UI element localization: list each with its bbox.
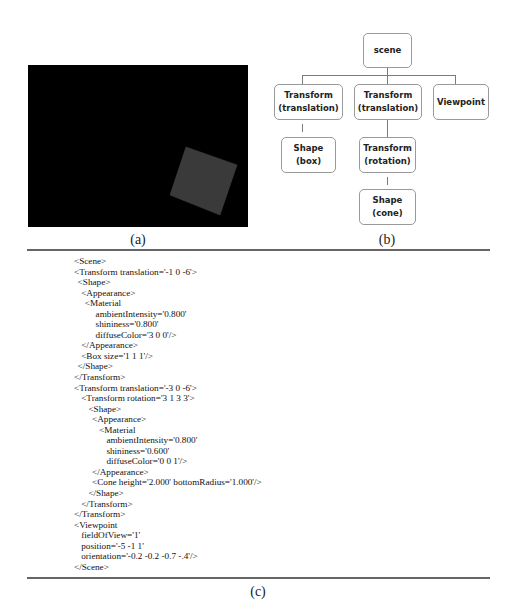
node-label: Transform bbox=[364, 89, 413, 102]
node-label: Transform bbox=[284, 89, 333, 102]
connector-line bbox=[302, 75, 456, 76]
connector-line bbox=[302, 124, 303, 132]
node-transform-rotation: Transform (rotation) bbox=[359, 137, 416, 173]
code-line: </Scene> bbox=[74, 562, 262, 573]
node-sublabel: (cone) bbox=[372, 207, 402, 220]
top-rule bbox=[27, 249, 490, 251]
code-line: <Material bbox=[74, 298, 262, 309]
node-label: Transform bbox=[363, 142, 412, 155]
caption-c: (c) bbox=[250, 584, 266, 600]
code-line: </Transform> bbox=[74, 499, 262, 510]
connector-line bbox=[455, 75, 456, 84]
code-line: <Transform translation='-1 0 -6'> bbox=[74, 267, 262, 278]
code-line: <Box size='1 1 1'/> bbox=[74, 351, 262, 362]
code-line: <Viewpoint bbox=[74, 520, 262, 531]
node-shape-cone: Shape (cone) bbox=[359, 189, 416, 225]
code-line: <Shape> bbox=[74, 404, 262, 415]
node-sublabel: (translation) bbox=[278, 102, 338, 115]
code-line: shininess='0.600' bbox=[74, 446, 262, 457]
code-line: </Shape> bbox=[74, 361, 262, 372]
code-line: ambientIntensity='0.800' bbox=[74, 435, 262, 446]
code-line: diffuseColor='3 0 0'/> bbox=[74, 330, 262, 341]
code-line: </Transform> bbox=[74, 509, 262, 520]
code-line: </Appearance> bbox=[74, 467, 262, 478]
code-line: orientation='-0.2 -0.2 -0.7 -.4'/> bbox=[74, 551, 262, 562]
caption-b: (b) bbox=[379, 232, 395, 248]
node-label: Shape bbox=[294, 142, 324, 155]
code-line: <Appearance> bbox=[74, 288, 262, 299]
code-line: diffuseColor='0 0 1'/> bbox=[74, 456, 262, 467]
node-sublabel: (translation) bbox=[358, 102, 418, 115]
code-line: <Transform rotation='3 1 3 3'> bbox=[74, 393, 262, 404]
x3d-code-listing: <Scene><Transform translation='-1 0 -6'>… bbox=[74, 256, 262, 572]
connector-line bbox=[302, 75, 303, 84]
node-sublabel: (rotation) bbox=[364, 155, 410, 168]
code-line: <Transform translation='-3 0 -6'> bbox=[74, 383, 262, 394]
rotated-box-shape bbox=[28, 65, 248, 227]
code-line: <Material bbox=[74, 425, 262, 436]
code-line: <Cone height='2.000' bottomRadius='1.000… bbox=[74, 477, 262, 488]
code-line: <Scene> bbox=[74, 256, 262, 267]
bottom-rule bbox=[27, 577, 490, 579]
code-line: </Shape> bbox=[74, 488, 262, 499]
connector-line bbox=[387, 75, 388, 84]
caption-a: (a) bbox=[130, 232, 146, 248]
connector-line bbox=[387, 177, 388, 185]
code-line: <Shape> bbox=[74, 277, 262, 288]
node-label: Shape bbox=[373, 194, 403, 207]
code-line: ambientIntensity='0.800' bbox=[74, 309, 262, 320]
node-sublabel: (box) bbox=[296, 155, 321, 168]
code-line: position='-5 -1 1' bbox=[74, 541, 262, 552]
code-line: shininess='0.800' bbox=[74, 319, 262, 330]
connector-line bbox=[387, 120, 388, 137]
code-line: </Appearance> bbox=[74, 340, 262, 351]
node-label: scene bbox=[374, 44, 402, 57]
code-line: <Appearance> bbox=[74, 414, 262, 425]
code-line: fieldOfView='1' bbox=[74, 530, 262, 541]
node-shape-box: Shape (box) bbox=[281, 137, 336, 173]
node-viewpoint: Viewpoint bbox=[433, 84, 489, 120]
node-scene: scene bbox=[363, 33, 412, 68]
node-label: Viewpoint bbox=[437, 96, 485, 109]
code-line: </Transform> bbox=[74, 372, 262, 383]
node-transform-translation-2: Transform (translation) bbox=[354, 84, 422, 120]
rendered-scene-image bbox=[28, 65, 248, 227]
node-transform-translation-1: Transform (translation) bbox=[274, 84, 343, 120]
